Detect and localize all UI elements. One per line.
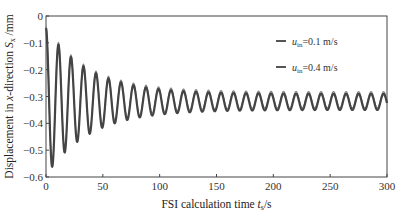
- y-axis: 0−0.1−0.2−0.3−0.4−0.5−0.6: [23, 10, 49, 183]
- legend-label: uin=0.4 m/s: [292, 62, 338, 75]
- y-tick-label: 0: [38, 10, 44, 22]
- y-tick-label: −0.2: [23, 64, 43, 76]
- x-tick-label: 300: [379, 180, 396, 192]
- y-tick-label: −0.6: [23, 171, 43, 183]
- y-tick-label: −0.3: [23, 91, 43, 103]
- x-tick-label: 150: [208, 180, 225, 192]
- x-tick-label: 250: [322, 180, 339, 192]
- series-line-0: [46, 28, 387, 167]
- x-tick-label: 200: [265, 180, 282, 192]
- x-tick-label: 0: [43, 180, 49, 192]
- legend: uin=0.1 m/suin=0.4 m/s: [276, 36, 338, 75]
- chart: 050100150200250300 0−0.1−0.2−0.3−0.4−0.5…: [0, 0, 405, 216]
- y-tick-label: −0.4: [23, 117, 43, 129]
- series-layer: [46, 26, 387, 167]
- x-axis-title: FSI calculation time ts/s: [161, 198, 272, 212]
- y-tick-label: −0.1: [23, 37, 43, 49]
- x-tick-label: 50: [97, 180, 109, 192]
- legend-label: uin=0.1 m/s: [292, 36, 338, 49]
- y-tick-label: −0.5: [23, 144, 43, 156]
- y-axis-title: Displacement in x-direction Sx /mm: [3, 14, 17, 178]
- x-tick-label: 100: [151, 180, 168, 192]
